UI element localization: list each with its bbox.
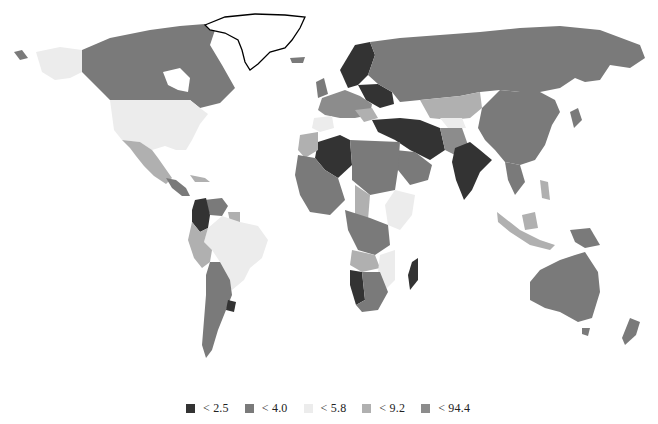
region-madagascar [408, 258, 418, 290]
legend-item-lt-4-0: < 4.0 [245, 401, 288, 416]
region-iceland [290, 57, 305, 63]
region-india [452, 142, 492, 200]
legend-item-lt-5-8: < 5.8 [304, 401, 347, 416]
legend-item-lt-94-4: < 94.4 [421, 401, 470, 416]
region-borneo [522, 212, 538, 230]
region-russia [368, 26, 645, 102]
region-uk [316, 78, 328, 98]
region-horn-of-africa [385, 190, 415, 230]
legend-swatch-icon [362, 404, 371, 413]
region-australia [530, 252, 600, 322]
legend-label: < 4.0 [262, 401, 288, 416]
region-philippines [540, 180, 550, 200]
region-central-america [166, 178, 190, 196]
region-morocco [298, 132, 318, 158]
legend-swatch-icon [186, 404, 195, 413]
legend-swatch-icon [245, 404, 254, 413]
legend-label: < 9.2 [379, 401, 405, 416]
region-alaska [36, 47, 82, 80]
region-new-zealand [622, 318, 640, 345]
legend-label: < 94.4 [438, 401, 470, 416]
region-greenland [205, 14, 305, 70]
region-tasmania [582, 328, 590, 336]
legend-label: < 2.5 [203, 401, 229, 416]
map-legend: < 2.5 < 4.0 < 5.8 < 9.2 < 94.4 [186, 400, 486, 416]
legend-item-lt-9-2: < 9.2 [362, 401, 405, 416]
region-canada [82, 24, 235, 108]
region-southeast-asia [505, 162, 525, 195]
region-china [478, 90, 560, 165]
region-papua [570, 228, 600, 248]
legend-label: < 5.8 [321, 401, 347, 416]
region-scandinavia [340, 42, 375, 88]
region-central-asia [440, 118, 466, 128]
legend-swatch-icon [304, 404, 313, 413]
region-iberia [312, 116, 334, 132]
region-aleutians [14, 50, 28, 60]
region-japan [570, 108, 582, 128]
region-caribbean [190, 175, 210, 182]
legend-swatch-icon [421, 404, 430, 413]
legend-item-lt-2-5: < 2.5 [186, 401, 229, 416]
world-map [0, 0, 658, 390]
